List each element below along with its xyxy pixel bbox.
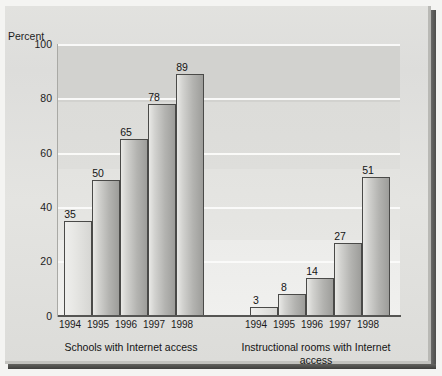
value-label-rooms-1995: 8 [264,282,304,293]
value-label-schools-1997: 78 [134,92,174,103]
y-tick-100: 100 [6,39,52,49]
y-tick-60: 60 [6,148,52,158]
group-title-rooms: Instructional rooms with Internet access [224,341,408,367]
plot-area [58,44,400,316]
gridline-80 [58,98,400,100]
value-label-rooms-1998: 51 [348,165,388,176]
bar-schools-1997 [148,104,176,316]
bar-rooms-1997 [334,243,362,316]
x-tick-schools-1998: 1998 [162,319,202,331]
bar-rooms-1995 [278,294,306,316]
group-title-schools: Schools with Internet access [58,341,204,354]
y-axis-ticks: 100 80 60 40 20 0 [6,0,52,376]
y-tick-0: 0 [6,311,52,321]
value-label-rooms-1994: 3 [236,295,276,306]
y-tick-80: 80 [6,93,52,103]
value-label-schools-1998: 89 [162,62,202,73]
value-label-schools-1994: 35 [50,209,90,220]
chart-figure: Percent 100 80 60 40 20 0 35 50 65 78 89… [0,0,442,376]
x-tick-rooms-1998: 1998 [348,319,388,331]
panel-shadow-right [431,10,436,368]
bar-schools-1996 [120,139,148,316]
bar-schools-1998 [176,74,204,316]
value-label-rooms-1997: 27 [320,231,360,242]
value-label-schools-1995: 50 [78,168,118,179]
x-axis-line [58,315,401,317]
gridline-100 [58,44,400,46]
bar-schools-1994 [64,221,92,316]
bar-schools-1995 [92,180,120,316]
y-axis-line [57,44,58,317]
bar-rooms-1998 [362,177,390,316]
gridline-60 [58,153,400,155]
value-label-schools-1996: 65 [106,127,146,138]
bar-rooms-1996 [306,278,334,316]
y-tick-40: 40 [6,202,52,212]
y-tick-20: 20 [6,256,52,266]
value-label-rooms-1996: 14 [292,266,332,277]
